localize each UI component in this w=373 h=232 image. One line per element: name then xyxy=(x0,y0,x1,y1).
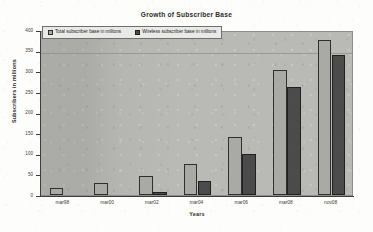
y-tick-mark xyxy=(36,196,40,197)
legend-swatch-icon xyxy=(135,30,140,35)
x-tick-label: mar00 xyxy=(87,201,127,206)
x-tick-label: mar98 xyxy=(42,201,82,206)
y-tick-mark xyxy=(36,114,40,115)
legend-entry: Wireless subscriber base in millions xyxy=(135,30,216,35)
bar xyxy=(94,183,108,195)
bar xyxy=(50,188,64,195)
y-tick-mark xyxy=(36,175,40,176)
legend-entry: Total subscriber base in millions xyxy=(48,30,121,35)
bar xyxy=(332,55,346,195)
y-axis-title: Subscribers in millions xyxy=(11,31,17,151)
x-tick-label: mar08 xyxy=(266,201,306,206)
bar xyxy=(273,70,287,195)
chart-title: Growth of Subscriber Base xyxy=(0,11,373,18)
y-tick-label: 100 xyxy=(13,152,33,157)
x-axis-title: Years xyxy=(40,211,354,217)
y-tick-mark xyxy=(36,31,40,32)
chart-legend: Total subscriber base in millionsWireles… xyxy=(42,26,222,39)
y-tick-mark xyxy=(36,52,40,53)
x-tick-label: mar04 xyxy=(177,201,217,206)
bar xyxy=(184,164,198,195)
y-tick-mark xyxy=(36,134,40,135)
x-axis-line xyxy=(40,196,354,197)
bar xyxy=(242,154,256,195)
bar xyxy=(153,192,167,195)
y-axis-line xyxy=(40,31,41,197)
plot-area xyxy=(40,31,353,196)
bar xyxy=(287,87,301,195)
legend-swatch-icon xyxy=(48,30,53,35)
bar xyxy=(198,181,212,195)
bar xyxy=(318,40,332,196)
x-tick-label: mar02 xyxy=(132,201,172,206)
bar-chart-figure: Growth of Subscriber Base 05010015020025… xyxy=(0,0,373,232)
legend-label: Wireless subscriber base in millions xyxy=(142,30,216,35)
y-tick-mark xyxy=(36,72,40,73)
x-tick-label: mar06 xyxy=(221,201,261,206)
bar xyxy=(228,137,242,195)
bar xyxy=(139,176,153,195)
y-tick-mark xyxy=(36,93,40,94)
y-tick-mark xyxy=(36,155,40,156)
legend-label: Total subscriber base in millions xyxy=(55,30,121,35)
gridline xyxy=(41,53,352,54)
y-tick-label: 0 xyxy=(13,194,33,199)
y-tick-label: 50 xyxy=(13,173,33,178)
x-tick-label: nov08 xyxy=(311,201,351,206)
